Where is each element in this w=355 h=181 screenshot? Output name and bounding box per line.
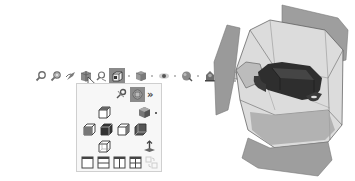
top-view-button[interactable] [98,106,111,119]
view-orientation-dropdown-arrow[interactable] [126,68,132,84]
more-views-button[interactable]: » [147,88,160,101]
zoom-to-area-button[interactable] [49,68,63,84]
hide-show-items-dropdown-arrow[interactable] [172,68,178,84]
zoom-to-fit-icon [35,70,47,82]
two-view-horizontal-button[interactable] [97,156,110,169]
edit-appearance-button[interactable] [180,68,194,84]
edit-appearance-dropdown-arrow[interactable] [195,68,201,84]
isometric-view-button[interactable] [138,106,151,119]
display-style-dropdown-arrow[interactable] [149,68,155,84]
more-chevron-icon: » [147,89,153,100]
display-style-icon [135,70,147,82]
zoom-to-fit-button[interactable] [34,68,48,84]
isometric-color-cube-icon [138,106,151,119]
edit-appearance-icon [181,70,193,82]
normal-to-icon [143,140,156,153]
two-view-horizontal-icon [97,156,110,169]
link-views-icon [145,156,158,169]
left-view-icon [100,123,113,136]
back-view-button[interactable] [134,123,147,136]
view-selector-button[interactable] [130,87,145,102]
back-view-icon [134,123,147,136]
front-view-button[interactable] [83,123,96,136]
view-orientation-menu: » [76,83,162,172]
two-view-vertical-icon [113,156,126,169]
link-views-button[interactable] [145,156,158,169]
pin-button[interactable] [115,88,128,101]
pin-icon [115,88,128,101]
view-selector-icon [130,87,145,102]
previous-view-button[interactable] [64,68,78,84]
previous-view-icon [65,70,77,82]
bottom-view-button[interactable] [98,140,111,153]
right-view-icon [117,123,130,136]
single-view-icon [81,156,94,169]
top-view-icon [98,106,111,119]
bottom-view-icon [98,140,111,153]
zoom-to-area-icon [50,70,62,82]
display-style-button[interactable] [134,68,148,84]
four-view-icon [129,156,142,169]
four-view-button[interactable] [129,156,142,169]
two-view-vertical-button[interactable] [113,156,126,169]
front-view-icon [83,123,96,136]
single-view-button[interactable] [81,156,94,169]
graphics-area-3d-model[interactable] [210,0,355,181]
view-orientation-icon [111,70,123,82]
view-orientation-button[interactable] [109,68,125,85]
hide-show-items-button[interactable] [157,68,171,84]
normal-to-button[interactable] [143,140,156,153]
right-view-button[interactable] [117,123,130,136]
hide-show-items-icon [158,70,170,82]
isometric-dropdown-arrow[interactable] [153,106,159,119]
left-view-button[interactable] [100,123,113,136]
